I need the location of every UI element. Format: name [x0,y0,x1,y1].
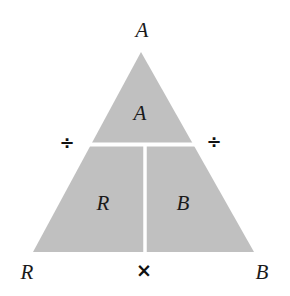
figure-root: A R B A R B ÷ ÷ × [0,0,290,296]
region-label-top: A [134,103,147,124]
vertex-label-bottom-left: R [21,262,34,283]
vertex-label-bottom-right: B [256,262,269,283]
divide-icon-right: ÷ [206,133,221,151]
vertex-label-top: A [136,20,149,41]
multiply-icon-bottom: × [136,261,152,280]
region-label-bottom-right: B [177,193,190,214]
region-label-bottom-left: R [97,193,110,214]
divide-icon-left: ÷ [59,134,74,152]
triangle-diagram [0,0,290,296]
